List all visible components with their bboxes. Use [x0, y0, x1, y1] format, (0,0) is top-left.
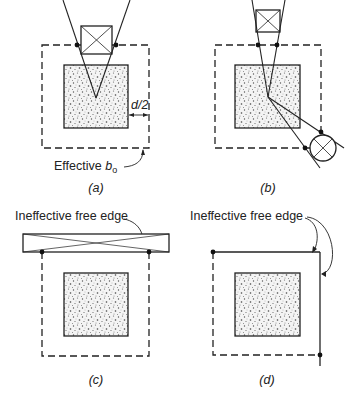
caption-a: (a) — [88, 181, 103, 195]
opening-icon — [81, 26, 112, 54]
caption-b: (b) — [260, 181, 275, 195]
column — [64, 273, 128, 336]
edge-label: Ineffective free edge — [15, 209, 128, 223]
panel-c: Ineffective free edge (c) — [15, 209, 169, 387]
panel-d: Ineffective free edge (d) — [190, 209, 333, 387]
punching-shear-diagram: d/2 Effective bo (a) (b) Ineff — [0, 0, 360, 400]
edge-label: Ineffective free edge — [190, 209, 303, 223]
panel-a: d/2 Effective bo (a) — [42, 0, 149, 195]
perimeter-label: Effective bo — [54, 159, 117, 175]
caption-d: (d) — [259, 373, 274, 387]
caption-c: (c) — [89, 373, 104, 387]
free-edge-opening — [23, 234, 169, 252]
opening-circle-icon — [310, 135, 336, 161]
dimension-label: d/2 — [131, 98, 148, 112]
panel-b: (b) — [215, 0, 344, 195]
opening-square-icon — [256, 10, 280, 32]
column — [235, 273, 300, 336]
